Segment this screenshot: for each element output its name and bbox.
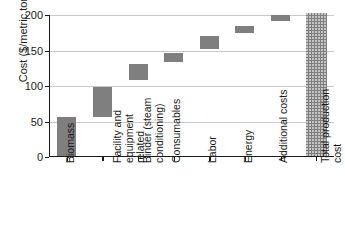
bar xyxy=(271,15,290,21)
x-axis-label: Additional costs xyxy=(278,89,290,163)
plot-area: 050100150200 xyxy=(49,15,334,157)
y-axis-tick-label: 50 xyxy=(31,116,43,127)
bar xyxy=(200,36,219,49)
y-axis-tick-label: 0 xyxy=(37,152,43,163)
x-axis-label: Labor xyxy=(207,136,219,163)
bar xyxy=(129,64,148,80)
x-axis-tick-mark xyxy=(316,157,317,161)
y-axis-tick-label: 150 xyxy=(25,45,43,56)
x-axis-label: Consumables xyxy=(171,99,183,163)
gridline xyxy=(50,51,334,52)
y-axis-line xyxy=(49,15,50,157)
bar xyxy=(93,87,112,117)
x-axis-label: Total production cost xyxy=(320,89,343,163)
x-axis-tick-mark xyxy=(102,157,103,161)
bar xyxy=(164,53,183,62)
x-axis-label: Energy xyxy=(243,130,255,163)
bar xyxy=(235,26,254,34)
x-axis-label: Binder (steam conditioning) xyxy=(142,98,165,163)
x-axis-label: Biomass xyxy=(65,123,77,163)
y-axis-tick-label: 200 xyxy=(25,10,43,21)
y-axis-tick-label: 100 xyxy=(25,81,43,92)
gridline xyxy=(50,15,334,16)
x-axis-line xyxy=(49,156,334,157)
y-axis-tick-mark xyxy=(45,157,49,158)
gridline xyxy=(50,122,334,123)
waterfall-chart-figure: Cost ($/metric ton) 050100150200 Biomass… xyxy=(0,0,345,251)
